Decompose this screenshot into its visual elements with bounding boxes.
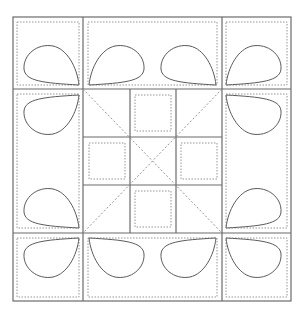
quilt-diagram xyxy=(0,0,308,314)
center-square-bottom xyxy=(135,191,171,227)
petal-icon xyxy=(161,238,216,277)
center-square-left xyxy=(89,143,125,179)
center-square-right xyxy=(181,143,217,179)
petal-icon xyxy=(24,95,79,134)
petal-icon xyxy=(89,238,144,277)
diagonal-line-2 xyxy=(83,89,222,233)
petal-icon xyxy=(226,95,281,134)
petal-icon xyxy=(161,46,216,85)
petal-icon xyxy=(89,46,144,85)
petal-icon xyxy=(226,46,281,85)
petal-icon xyxy=(226,189,281,228)
center-grid xyxy=(83,89,222,233)
petal-icon xyxy=(24,46,79,85)
petal-icon xyxy=(24,189,79,228)
petal-icon xyxy=(226,238,281,277)
petal-icon xyxy=(24,238,79,277)
center-square-top xyxy=(135,95,171,131)
